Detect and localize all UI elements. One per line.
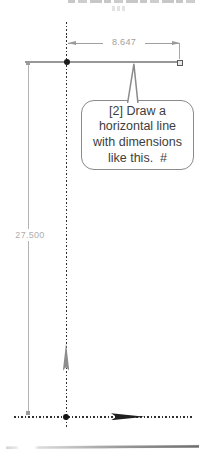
dimension-tick-bottom	[26, 411, 30, 415]
cropped-text-remnant	[68, 0, 196, 3]
origin-point[interactable]	[63, 414, 69, 420]
cropped-edge-remnant	[6, 444, 199, 449]
instruction-callout: [2] Draw a horizontal line with dimensio…	[81, 100, 194, 170]
line-start-point[interactable]	[64, 59, 70, 65]
callout-line-2: horizontal line	[99, 119, 176, 135]
sketch-canvas: 27.500 8.647 [2] Draw a horizontal line …	[0, 0, 199, 452]
right-direction-arrow-icon	[111, 413, 145, 420]
callout-line-3: with dimensions	[93, 135, 182, 151]
faint-text-smudge	[112, 6, 127, 11]
horizontal-dimension-value[interactable]: 8.647	[103, 37, 145, 48]
line-end-point[interactable]	[177, 60, 183, 66]
dimension-arrow-left-icon	[68, 41, 76, 45]
up-direction-arrow-icon	[63, 343, 70, 371]
callout-tail	[0, 0, 199, 452]
callout-line-4: like this. #	[108, 151, 167, 167]
horizontal-centerline[interactable]	[14, 416, 192, 417]
dimension-witness-line	[179, 43, 180, 59]
callout-line-1: [2] Draw a	[109, 104, 166, 120]
sketch-horizontal-line[interactable]	[25, 61, 180, 63]
vertical-dimension-value[interactable]: 27.500	[11, 229, 49, 241]
